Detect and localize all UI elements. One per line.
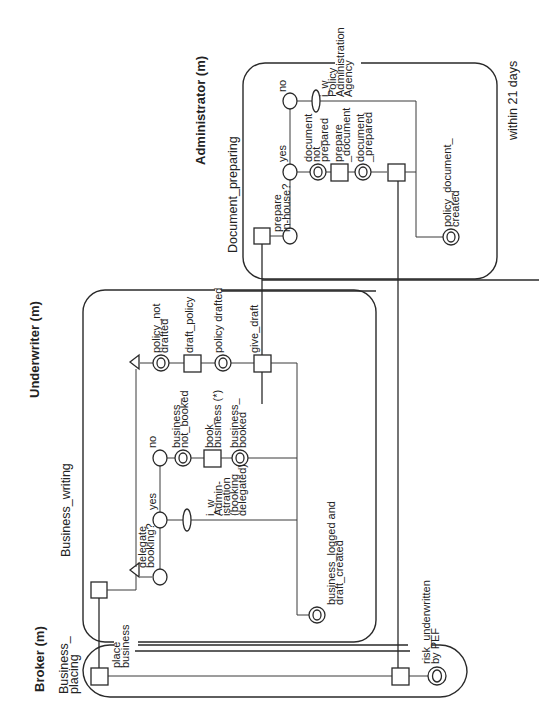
label-admin-iw-4: Agency	[342, 60, 354, 97]
label-admin-yes: yes	[276, 144, 288, 162]
label-logged-2: draft_created	[333, 540, 345, 605]
label-prepare-document-2: _document	[340, 108, 352, 163]
label-risk-2: by PEF	[429, 628, 441, 664]
label-uw-yes: yes	[146, 492, 158, 510]
label-admin-no: no	[276, 80, 288, 92]
uw-no-circle	[153, 450, 167, 466]
uw-decision-circle	[153, 569, 167, 585]
uw-start-activity	[91, 582, 107, 598]
admin-lane-title: Administrator (m)	[193, 56, 208, 165]
label-delegate-2: booking?	[144, 523, 156, 568]
admin-start-activity	[254, 228, 270, 244]
broker-lane-title: Broker (m)	[32, 626, 47, 692]
broker-activity-risk	[392, 668, 409, 685]
label-prepare-inhouse-2: in-house?	[280, 184, 292, 232]
label-book-2: business (*)	[211, 390, 223, 448]
label-place-2: business	[119, 624, 131, 668]
uw-process-name: Business_writing	[59, 463, 73, 557]
uw-activity-book-business	[204, 450, 221, 467]
label-policy-not-drafted-2: drafted	[158, 319, 170, 353]
uw-lane-title: Underwriter (m)	[27, 301, 42, 398]
process-diagram: Administrator (m) Document_preparing wit…	[0, 0, 539, 728]
admin-end-activity	[388, 164, 405, 181]
label-draft-policy: draft_policy	[183, 296, 195, 353]
admin-constraint: within 21 days	[506, 61, 520, 141]
admin-process-name: Document_preparing	[226, 136, 240, 253]
label-policy-doc-created-2: created	[449, 190, 461, 227]
uw-interface-triangle-top	[130, 355, 139, 369]
uw-activity-draft-policy	[184, 355, 201, 372]
label-uw-iw-5: delegated)	[236, 464, 248, 516]
admin-yes-circle	[283, 164, 297, 180]
label-uw-no: no	[146, 436, 158, 448]
broker-process-name-2: placing	[67, 654, 81, 694]
label-booked-2: booked	[236, 412, 248, 448]
label-give-draft: give_draft	[248, 305, 260, 353]
label-doc-not-prepared-3: prepared	[318, 118, 330, 162]
label-policy-drafted: policy drafted	[212, 288, 224, 353]
admin-activity-prepare-document	[331, 164, 348, 181]
label-doc-prepared-2: _prepared	[362, 112, 374, 163]
broker-activity-place-business	[91, 668, 108, 685]
label-not-booked-2: not_booked	[178, 391, 190, 449]
admin-no-circle	[283, 93, 297, 109]
uw-activity-give-draft	[254, 355, 271, 372]
uw-info-object	[183, 509, 191, 531]
